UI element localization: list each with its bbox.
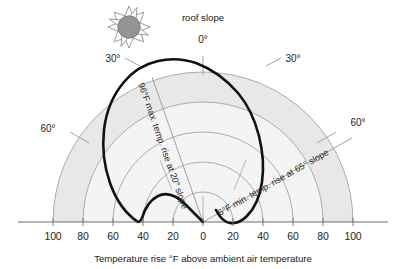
- angle-label-30deg-left: 30°: [105, 53, 120, 64]
- tick-label-left-40: 40: [137, 230, 149, 242]
- chart-svg: 100 80 60 40 20 0 20 40 60 80 100 Temper…: [0, 0, 405, 269]
- tick-label-left-60: 60: [107, 230, 119, 242]
- tick-label-right-60: 60: [287, 230, 299, 242]
- sun-icon: [108, 6, 150, 48]
- spoke-tick-30deg-left: [125, 58, 140, 66]
- tick-label-right-80: 80: [317, 230, 329, 242]
- sun-disc: [118, 16, 140, 38]
- tick-label-left-80: 80: [77, 230, 89, 242]
- tick-label-right-100: 100: [345, 230, 362, 242]
- tick-label-left-100: 100: [45, 230, 62, 242]
- radial-tick-labels: 100 80 60 40 20 0 20 40 60 80 100: [45, 230, 362, 242]
- angle-label-30deg-right: 30°: [285, 53, 300, 64]
- angle-label-60deg-right: 60°: [350, 117, 365, 128]
- tick-label-right-20: 20: [227, 230, 239, 242]
- spoke-tick-30deg-right: [266, 58, 281, 66]
- tick-label-center-0: 0: [200, 230, 206, 242]
- roof-slope-temperature-rise-chart: 100 80 60 40 20 0 20 40 60 80 100 Temper…: [0, 0, 405, 269]
- angle-label-0deg: 0°: [198, 34, 208, 45]
- tick-label-left-20: 20: [167, 230, 179, 242]
- tick-label-right-40: 40: [257, 230, 269, 242]
- angle-label-60deg-left: 60°: [40, 123, 55, 134]
- x-axis-title: Temperature rise °F above ambient air te…: [94, 253, 312, 264]
- roof-slope-title: roof slope: [182, 12, 224, 23]
